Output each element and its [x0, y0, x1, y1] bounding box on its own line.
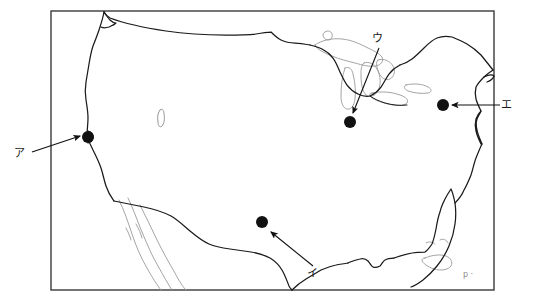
marker-dot-i[interactable] [256, 216, 268, 228]
marker-label-i: イ [307, 267, 318, 280]
marker-dot-u[interactable] [344, 116, 356, 128]
map-figure: ア イ ウ エ p · [0, 0, 535, 305]
page-background [0, 0, 535, 305]
marker-label-u: ウ [372, 32, 383, 45]
map-canvas: ア イ ウ エ p · [0, 0, 535, 305]
marker-label-e: エ [501, 98, 512, 111]
marker-label-a: ア [14, 147, 25, 160]
marker-dot-a[interactable] [82, 131, 94, 143]
corner-scan-mark: p · [463, 270, 473, 279]
marker-dot-e[interactable] [437, 99, 449, 111]
